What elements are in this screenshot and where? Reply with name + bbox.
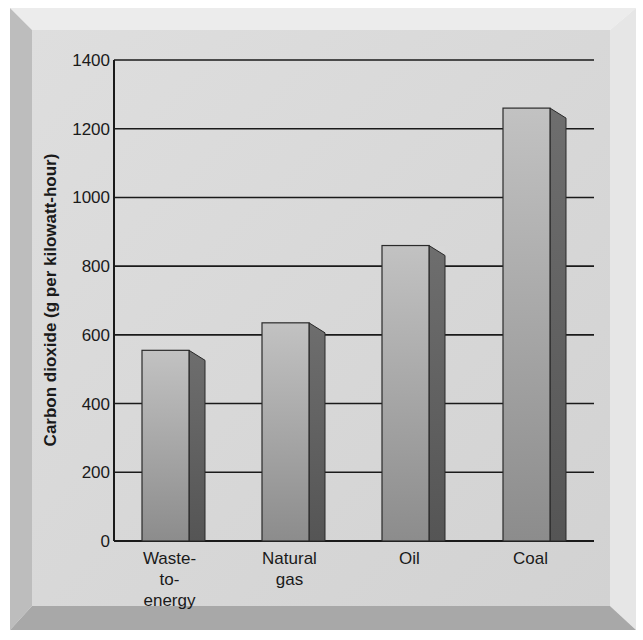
bevel-left <box>10 8 32 630</box>
bar-coal <box>503 108 566 541</box>
x-category-label: energy <box>144 591 196 610</box>
bar-chart: 0200400600800100012001400 Waste-to-energ… <box>10 8 636 630</box>
y-axis-label: Carbon dioxide (g per kilowatt-hour) <box>41 154 60 447</box>
y-tick-label: 400 <box>82 395 110 414</box>
x-category-label: Natural <box>262 549 317 568</box>
y-tick-label: 800 <box>82 257 110 276</box>
bevel-bottom <box>10 606 636 630</box>
y-tick-label: 0 <box>101 532 110 551</box>
x-category-label: Coal <box>513 549 548 568</box>
x-category-label: Waste- <box>143 549 196 568</box>
bevel-top <box>10 8 636 30</box>
x-category-label: to- <box>160 570 180 589</box>
x-category-label: gas <box>276 570 303 589</box>
y-tick-label: 200 <box>82 463 110 482</box>
chart-panel: 0200400600800100012001400 Waste-to-energ… <box>10 8 636 630</box>
bevel-right <box>610 8 636 630</box>
bar-oil <box>382 246 445 541</box>
bar-natural-gas <box>262 323 325 541</box>
bar-waste-to-energy <box>142 350 205 541</box>
y-tick-label: 1000 <box>72 188 110 207</box>
x-category-label: Oil <box>399 549 420 568</box>
y-tick-label: 1200 <box>72 120 110 139</box>
y-tick-label: 600 <box>82 326 110 345</box>
y-tick-label: 1400 <box>72 51 110 70</box>
